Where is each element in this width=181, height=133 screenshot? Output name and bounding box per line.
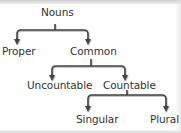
node-singular: Singular bbox=[76, 114, 118, 125]
connector-countable bbox=[88, 90, 166, 109]
node-countable: Countable bbox=[103, 80, 156, 91]
connector-nouns bbox=[17, 24, 88, 42]
node-proper: Proper bbox=[2, 46, 36, 57]
node-plural: Plural bbox=[150, 114, 179, 125]
node-common: Common bbox=[70, 46, 117, 57]
node-uncountable: Uncountable bbox=[27, 80, 92, 91]
node-nouns: Nouns bbox=[41, 7, 74, 18]
connector-common bbox=[52, 59, 125, 78]
